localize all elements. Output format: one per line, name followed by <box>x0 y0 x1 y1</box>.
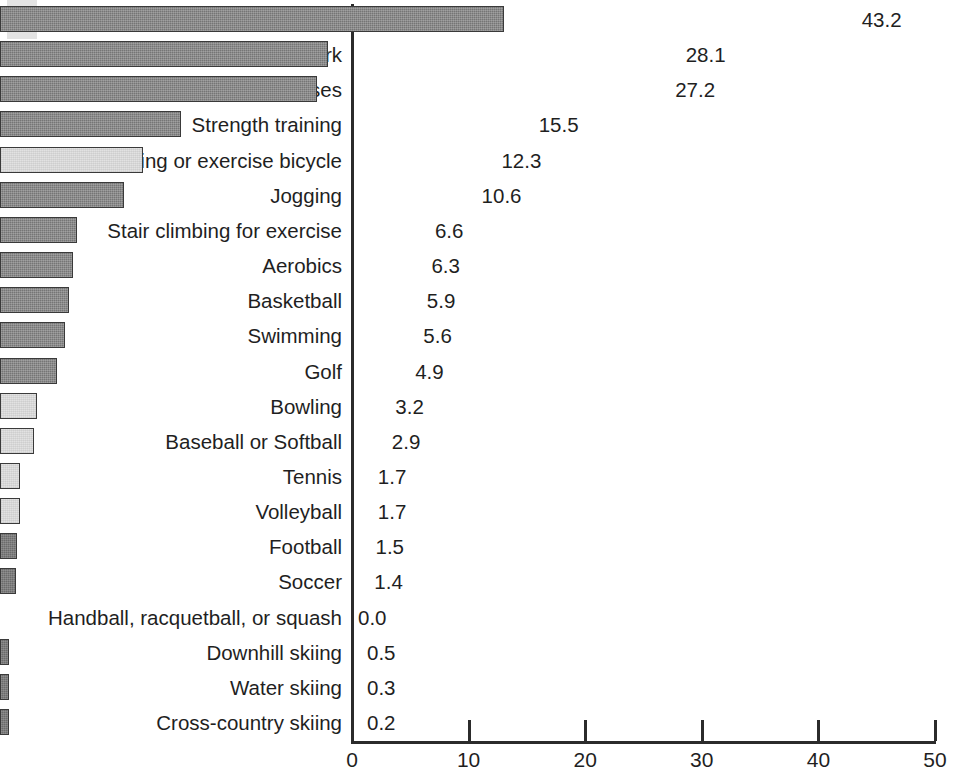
x-tick-label: 30 <box>690 748 713 772</box>
x-tick-mark <box>701 720 704 741</box>
horizontal-bar-chart: Walking for exercise43.2Gardening/yard w… <box>0 0 966 779</box>
chart-page: e Walking for exercise43.2Gardening/yard… <box>0 0 966 779</box>
x-tick-mark <box>817 720 820 741</box>
x-tick-label: 10 <box>457 748 480 772</box>
x-axis-ticks: 01020304050 <box>0 0 966 779</box>
x-tick-label: 40 <box>807 748 830 772</box>
x-tick-label: 0 <box>346 748 358 772</box>
x-tick-mark <box>468 720 471 741</box>
x-tick-label: 20 <box>574 748 597 772</box>
x-tick-mark <box>934 720 937 741</box>
x-tick-label: 50 <box>923 748 946 772</box>
x-tick-mark <box>584 720 587 741</box>
